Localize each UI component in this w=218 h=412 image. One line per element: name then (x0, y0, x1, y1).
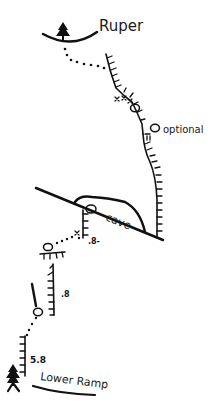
dotted-approach-lower (26, 317, 37, 336)
upper-crack-line (106, 54, 145, 134)
label-optional: optional (163, 124, 204, 135)
label-ruper: Ruper (99, 17, 144, 35)
tree-icon-bottom (6, 364, 20, 391)
grade-upper-pitch: .8- (88, 237, 100, 246)
flake-line (32, 284, 36, 306)
top-ledge (43, 32, 97, 42)
dotted-traverse-middle (56, 236, 80, 244)
right-crack-line (143, 134, 162, 238)
bolt-marker-cave (75, 231, 79, 235)
first-pitch-crack (20, 336, 25, 376)
label-lower-ramp: Lower Ramp (40, 370, 109, 391)
tree-icon-top (56, 22, 70, 40)
cave-crack-line (83, 210, 88, 238)
belay-anchor-optional (151, 124, 160, 132)
belay-anchor-middle (44, 243, 53, 250)
grade-middle-pitch: .8 (61, 290, 70, 299)
horizontal-crack-middle (40, 252, 65, 259)
grade-first-pitch: 5.8 (30, 355, 46, 365)
dotted-approach-top (64, 48, 106, 70)
label-cave: cave (104, 211, 133, 233)
middle-crack-line (48, 264, 54, 315)
route-topo-diagram: Ruper optional cave .8- (0, 0, 218, 412)
belay-anchor-lower (34, 308, 43, 316)
